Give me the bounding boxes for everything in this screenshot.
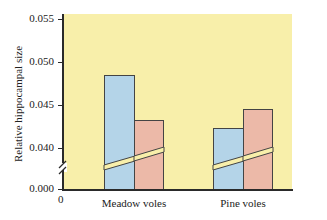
x-axis: [62, 189, 293, 191]
y-axis-upper: [62, 14, 64, 163]
x-category-label: Pine voles: [193, 197, 293, 209]
y-axis-lower: [62, 170, 64, 190]
x-category-label: Meadow voles: [84, 197, 184, 209]
axis-break-marks: [0, 0, 327, 220]
x-origin-label: 0: [58, 193, 64, 205]
